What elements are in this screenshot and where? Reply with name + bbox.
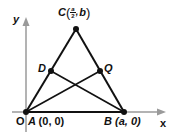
point-c-name: C bbox=[58, 6, 66, 18]
point-a-label: A (0, 0) bbox=[28, 116, 64, 127]
point-b-coords: (a, 0) bbox=[115, 115, 141, 127]
paren-close: ) bbox=[86, 5, 90, 20]
point-b-label: B (a, 0) bbox=[104, 116, 141, 127]
point-c-label: C(a2,b) bbox=[58, 6, 90, 19]
x-axis-arrow-icon bbox=[157, 109, 166, 116]
point-b-name: B bbox=[104, 115, 112, 127]
point-q bbox=[97, 68, 103, 74]
y-axis-arrow-icon bbox=[23, 17, 30, 26]
point-c-y: b bbox=[78, 6, 86, 18]
point-a-coords: (0, 0) bbox=[39, 115, 65, 127]
point-q-label: Q bbox=[104, 63, 113, 74]
cevians bbox=[26, 71, 124, 112]
point-d-label: D bbox=[38, 63, 46, 74]
origin-label: O bbox=[16, 116, 25, 127]
point-d bbox=[48, 68, 54, 74]
y-axis-label: y bbox=[13, 14, 19, 25]
point-a-name: A bbox=[28, 115, 36, 127]
x-axis-label: x bbox=[160, 118, 166, 129]
point-c bbox=[73, 26, 79, 32]
